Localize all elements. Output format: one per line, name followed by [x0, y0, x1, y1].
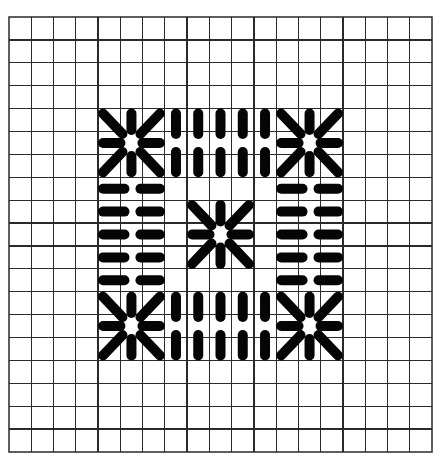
stitch-diagram	[0, 0, 442, 461]
background	[0, 0, 442, 461]
